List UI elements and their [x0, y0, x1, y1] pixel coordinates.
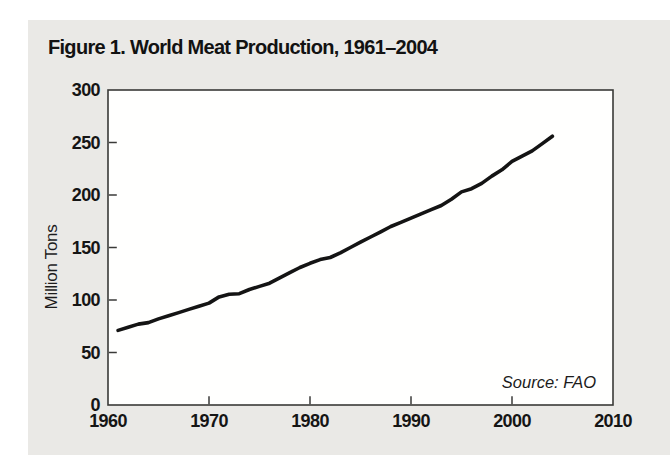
- y-tick-label: 250: [28, 133, 100, 153]
- x-tick-label: 1990: [381, 411, 441, 431]
- x-tick-label: 1970: [179, 411, 239, 431]
- source-label: Source: FAO: [502, 373, 596, 392]
- x-tick-label: 2000: [482, 411, 542, 431]
- x-tick-label: 1980: [280, 411, 340, 431]
- y-tick-label: 50: [28, 343, 100, 363]
- y-tick-label: 100: [28, 290, 100, 310]
- x-tick-label: 1960: [78, 411, 138, 431]
- x-tick-label: 2010: [583, 411, 643, 431]
- figure-panel: Figure 1. World Meat Production, 1961–20…: [28, 20, 670, 455]
- y-tick-label: 200: [28, 185, 100, 205]
- y-tick-label: 300: [28, 80, 100, 100]
- plot-border: [108, 90, 613, 405]
- y-tick-label: 150: [28, 238, 100, 258]
